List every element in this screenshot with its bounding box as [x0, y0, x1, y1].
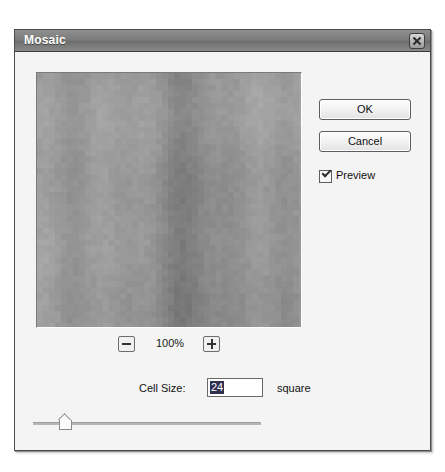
preview-image-panel[interactable]: [36, 72, 302, 328]
checkmark-icon: [322, 168, 332, 178]
cell-size-slider[interactable]: [15, 414, 430, 436]
cell-size-input[interactable]: 24: [207, 378, 263, 397]
slider-thumb[interactable]: [59, 415, 72, 430]
dialog-body: 100% OK Cancel Preview Cell Size: 24 squ…: [15, 52, 430, 450]
cell-size-label: Cell Size:: [139, 382, 185, 394]
close-icon[interactable]: [409, 33, 425, 49]
zoom-controls: 100%: [36, 336, 302, 354]
preview-checkbox[interactable]: [319, 170, 332, 183]
mosaic-dialog: Mosaic 100% OK Cancel: [14, 29, 431, 451]
cell-size-value: 24: [210, 381, 224, 394]
zoom-level-label: 100%: [141, 337, 199, 349]
ok-button[interactable]: OK: [319, 99, 411, 120]
dialog-titlebar[interactable]: Mosaic: [15, 30, 430, 52]
plus-icon-bar-v: [211, 339, 213, 349]
slider-thumb-body: [59, 420, 72, 430]
cancel-button[interactable]: Cancel: [319, 131, 411, 152]
preview-label: Preview: [336, 169, 375, 181]
cell-size-row: Cell Size: 24 square: [15, 378, 430, 400]
dialog-title: Mosaic: [24, 33, 66, 47]
minus-icon-bar: [122, 343, 131, 345]
cell-size-unit-label: square: [277, 382, 311, 394]
preview-image: [37, 73, 301, 327]
plus-icon[interactable]: [203, 336, 220, 352]
minus-icon[interactable]: [118, 336, 135, 352]
